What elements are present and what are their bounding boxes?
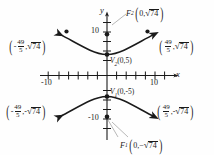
paren-open-icon: (: [129, 137, 132, 154]
paren-close-icon: ): [190, 38, 193, 55]
fraction-denominator: 5: [15, 111, 21, 119]
focus-upper-y-radical: √74: [145, 9, 159, 18]
fraction-denominator: 5: [163, 111, 169, 119]
fraction-numerator: 49: [16, 39, 25, 46]
radicand: 74: [179, 107, 189, 116]
point-upper-left: [64, 29, 68, 33]
focus-lower-label: F1 ( 0, − √74 ): [120, 137, 163, 154]
paren-close-icon: ): [161, 5, 164, 22]
vertex-upper-coords: (0,5): [117, 56, 131, 65]
vertex-lower-coords: (0,-5): [117, 87, 134, 96]
paren-open-icon: (: [159, 38, 162, 55]
point-lower-right-label: ( 49 5 , - √74 ): [156, 103, 195, 120]
point-vertex-upper: [105, 52, 110, 57]
focus-lower-y-radical: √74: [144, 141, 158, 150]
point-lower-right-fraction: 49 5: [162, 104, 171, 119]
focus-upper-y-radicand: 74: [149, 9, 159, 18]
x-tick-label-negative-ten: -10: [41, 79, 52, 87]
point-lower-right-radical: √74: [175, 107, 189, 116]
point-focus-lower: [105, 115, 110, 120]
paren-close-icon: ): [159, 137, 162, 154]
x-tick-label-positive-ten: 10: [150, 79, 158, 87]
focus-upper-label: F2 ( 0, √74 ): [126, 5, 165, 22]
point-lower-left-fraction: 49 5: [13, 104, 22, 119]
point-upper-right: [145, 29, 149, 33]
point-upper-right-fraction: 49 5: [164, 39, 173, 54]
paren-open-icon: (: [135, 5, 138, 22]
point-upper-left-fraction: 49 5: [16, 39, 25, 54]
radicand: 74: [179, 42, 189, 51]
y-tick-label-negative-ten: -10: [88, 114, 99, 122]
y-tick-label-positive-ten: 10: [91, 27, 99, 35]
focus-upper-subscript: 2: [131, 11, 134, 17]
point-focus-upper: [105, 32, 110, 37]
x-axis-label: x: [176, 70, 180, 79]
point-upper-right-label: ( 49 5 , √74 ): [158, 38, 194, 55]
fraction-denominator: 5: [18, 46, 24, 54]
point-vertex-lower: [105, 94, 110, 99]
paren-close-icon: ): [191, 103, 194, 120]
fraction-numerator: 49: [13, 104, 22, 111]
hyperbola-figure: -10 10 10 -10 x y F2 ( 0, √74 ) F1 ( 0, …: [0, 0, 214, 155]
radicand: 74: [31, 42, 41, 51]
focus-lower-subscript: 1: [125, 143, 128, 149]
point-upper-left-radical: √74: [27, 42, 41, 51]
fraction-numerator: 49: [162, 104, 171, 111]
paren-open-icon: (: [157, 103, 160, 120]
paren-close-icon: ): [42, 103, 45, 120]
point-lower-left-label: ( - 49 5 , - √74 ): [5, 103, 47, 120]
paren-close-icon: ): [43, 38, 46, 55]
paren-open-icon: (: [9, 38, 12, 55]
point-upper-right-radical: √74: [175, 42, 189, 51]
fraction-denominator: 5: [165, 46, 171, 54]
point-upper-left-label: ( - 49 5 , √74 ): [8, 38, 47, 55]
radicand: 74: [31, 107, 41, 116]
y-axis-label: y: [100, 6, 104, 15]
vertex-lower-label: V1(0,-5): [110, 88, 134, 98]
paren-open-icon: (: [6, 103, 9, 120]
point-lower-left-radical: √74: [27, 107, 41, 116]
graph-canvas: [0, 0, 214, 155]
fraction-numerator: 49: [164, 39, 173, 46]
focus-lower-y-radicand: 74: [148, 141, 158, 150]
vertex-upper-label: V2(0,5): [110, 57, 132, 67]
